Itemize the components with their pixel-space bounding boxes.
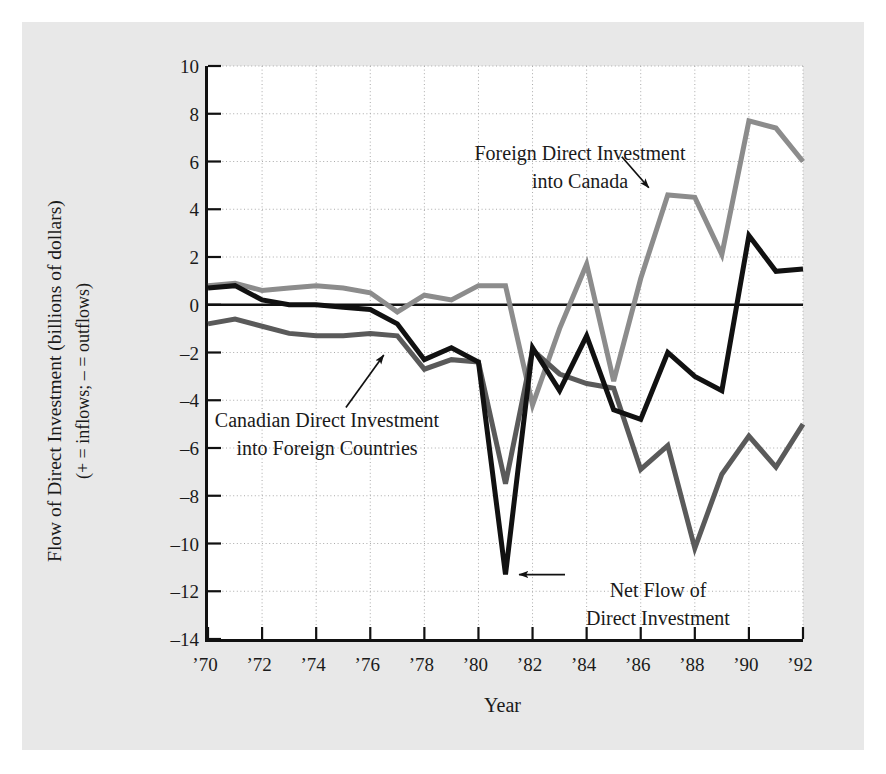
x-tick-label: ’70 [192,654,217,676]
y-tick-label: –12 [153,582,199,601]
y-tick-label: –14 [153,630,199,649]
y-axis-title-line2: (+ = inflows; – = outflows) [71,95,99,668]
x-tick-label: ’90 [733,654,758,676]
x-tick-label: ’88 [679,654,704,676]
x-axis-title: Year [205,694,800,717]
annotation-net-flow-of-direct-investment: Net Flow of Direct Investment [553,577,763,632]
annotation-canadian-direct-investment-into-foreign-countries: Canadian Direct Investment into Foreign … [177,407,477,462]
x-tick-label: ’72 [246,654,271,676]
x-tick-label: ’74 [301,654,326,676]
y-tick-label: –2 [153,343,199,362]
y-tick-label: 10 [153,57,199,76]
y-tick-label: –10 [153,534,199,553]
y-tick-label: 2 [153,248,199,267]
y-tick-label: –8 [153,486,199,505]
figure-panel: Flow of Direct Investment (billions of d… [22,22,864,750]
y-axis-title-line1: Flow of Direct Investment (billions of d… [44,200,65,562]
y-tick-label: 8 [153,104,199,123]
y-tick-label: 4 [153,200,199,219]
x-axis-tick-labels: ’70’72’74’76’78’80’82’84’86’88’90’92 [205,654,800,684]
x-tick-label: ’92 [787,654,812,676]
y-axis-tick-marks [208,66,221,639]
x-tick-label: ’86 [625,654,650,676]
y-tick-label: 0 [153,295,199,314]
x-tick-label: ’80 [463,654,488,676]
y-tick-label: 6 [153,152,199,171]
x-tick-label: ’76 [355,654,380,676]
x-tick-label: ’82 [517,654,542,676]
x-tick-label: ’78 [409,654,434,676]
y-axis-title: Flow of Direct Investment (billions of d… [40,95,98,668]
x-tick-label: ’84 [571,654,596,676]
annotation-foreign-direct-investment-into-canada: Foreign Direct Investment into Canada [446,140,714,195]
y-axis-tick-labels: 1086420–2–4–6–8–10–12–14 [147,66,199,639]
